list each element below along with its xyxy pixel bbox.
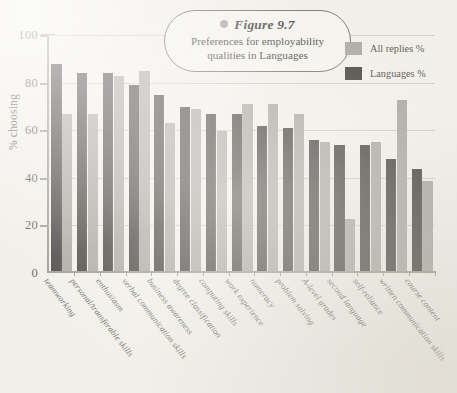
bar-languages	[309, 140, 319, 271]
x-axis-category-labels: teamworkingpersonal/transferable skillse…	[47, 276, 447, 391]
bar-languages	[129, 85, 139, 271]
y-tick-label: 20	[25, 218, 38, 233]
figure-number-line: Figure 9.7	[175, 17, 340, 33]
bar-all-replies	[294, 114, 304, 271]
legend-item-languages: Languages %	[345, 67, 426, 80]
bar-all-replies	[88, 114, 98, 271]
y-tick-label: 60	[25, 123, 38, 138]
bar-all-replies	[191, 109, 201, 271]
bar-languages	[232, 114, 242, 271]
bar-all-replies	[320, 142, 330, 271]
figure-number: Figure 9.7	[234, 17, 295, 32]
y-tick-label: 100	[18, 28, 38, 43]
bar-all-replies	[62, 114, 72, 271]
legend-swatch-dark-icon	[345, 67, 362, 80]
bar-all-replies	[345, 219, 355, 271]
bar-languages	[360, 145, 370, 271]
figure-page: 020406080100 % choosing teamworkingperso…	[0, 0, 457, 393]
bar-group	[103, 35, 124, 271]
y-axis-tick	[40, 178, 48, 180]
y-axis-title: % choosing	[7, 94, 19, 150]
bar-all-replies	[242, 104, 252, 271]
legend-swatch-gray-icon	[345, 42, 362, 55]
chart-legend: All replies % Languages %	[345, 42, 426, 92]
bar-languages	[180, 107, 190, 271]
bar-group	[77, 35, 98, 271]
legend-label-all-replies: All replies %	[370, 43, 424, 54]
bar-all-replies	[139, 71, 149, 271]
x-axis-label: business awareness	[145, 276, 195, 337]
y-tick-label: 0	[31, 266, 38, 281]
y-axis-tick	[40, 130, 48, 132]
legend-item-all-replies: All replies %	[345, 42, 426, 55]
figure-caption: Preferences for employability qualities …	[175, 34, 340, 63]
bar-languages	[154, 95, 164, 271]
bar-group	[129, 35, 150, 271]
x-axis-label: degree classification	[171, 276, 224, 340]
bar-all-replies	[268, 104, 278, 271]
bar-languages	[412, 169, 422, 271]
bar-languages	[51, 64, 61, 271]
bar-languages	[386, 159, 396, 271]
bar-all-replies	[217, 131, 227, 271]
bar-languages	[334, 145, 344, 271]
bar-languages	[206, 114, 216, 271]
bar-all-replies	[422, 181, 432, 271]
bar-languages	[103, 73, 113, 271]
y-tick-label: 40	[25, 170, 38, 185]
bar-languages	[257, 126, 267, 271]
bar-group	[51, 35, 72, 271]
y-axis-tick	[40, 35, 48, 37]
y-axis-tick	[40, 83, 48, 85]
y-tick-label: 80	[25, 75, 38, 90]
bar-all-replies	[165, 123, 175, 271]
bar-all-replies	[397, 100, 407, 271]
x-axis-line	[47, 271, 435, 273]
bar-all-replies	[371, 142, 381, 271]
bar-languages	[77, 73, 87, 271]
bullet-dot-icon	[220, 20, 228, 28]
bar-languages	[283, 128, 293, 271]
figure-title-callout: Figure 9.7 Preferences for employability…	[164, 10, 351, 72]
legend-label-languages: Languages %	[370, 68, 426, 79]
bar-group	[154, 35, 175, 271]
y-axis-tick	[40, 225, 48, 227]
bar-all-replies	[114, 76, 124, 271]
